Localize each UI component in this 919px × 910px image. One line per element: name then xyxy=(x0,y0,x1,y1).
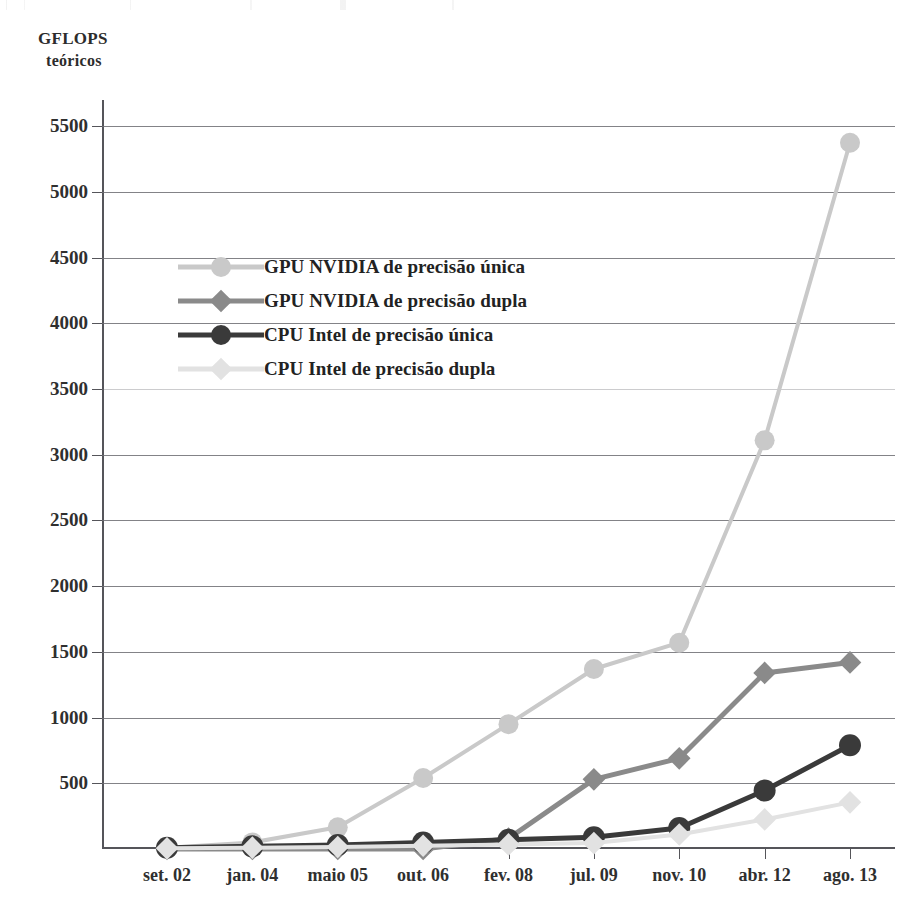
series-1 xyxy=(157,133,860,858)
y-axis-label: 500 xyxy=(60,772,89,794)
x-axis-tick xyxy=(850,849,851,859)
y-axis-tick xyxy=(92,783,102,784)
x-axis-label: out. 06 xyxy=(397,865,449,886)
x-axis-label: nov. 10 xyxy=(652,865,706,886)
y-axis-tick xyxy=(92,389,102,390)
y-axis-label: 2000 xyxy=(50,575,88,597)
data-point-marker xyxy=(753,808,776,831)
legend-item-2[interactable]: GPU NVIDIA de precisão dupla xyxy=(178,286,527,315)
series-layer xyxy=(102,100,895,849)
data-point-marker xyxy=(499,714,519,734)
data-point-marker xyxy=(755,430,775,450)
y-axis-label: 5000 xyxy=(50,181,88,203)
series-line xyxy=(167,143,850,848)
y-axis-title-line2: teóricos xyxy=(38,50,108,72)
legend-label: CPU Intel de precisão única xyxy=(264,324,493,346)
legend-marker xyxy=(211,257,231,277)
x-axis-label: jul. 09 xyxy=(570,865,618,886)
y-axis-title: GFLOPS teóricos xyxy=(38,28,108,72)
legend-marker-circle-icon xyxy=(178,255,264,279)
x-axis-label: fev. 08 xyxy=(484,865,533,886)
y-axis-tick xyxy=(92,520,102,521)
y-axis-label: 4500 xyxy=(50,246,88,268)
y-axis-label: 2500 xyxy=(50,509,88,531)
y-axis-tick xyxy=(92,126,102,127)
y-axis-tick xyxy=(92,455,102,456)
y-axis-tick xyxy=(92,323,102,324)
x-axis-tick xyxy=(765,849,766,859)
legend-marker-diamond-icon xyxy=(178,289,264,313)
legend-label: CPU Intel de precisão dupla xyxy=(264,358,495,380)
plot-area: 5001000150020002500300035004000450050005… xyxy=(102,100,895,849)
legend-label: GPU NVIDIA de precisão dupla xyxy=(264,290,527,312)
data-point-marker xyxy=(839,651,862,674)
legend-label: GPU NVIDIA de precisão única xyxy=(264,256,525,278)
y-axis-tick xyxy=(92,718,102,719)
data-point-marker xyxy=(840,133,860,153)
legend-item-1[interactable]: GPU NVIDIA de precisão única xyxy=(178,252,527,281)
y-axis-title-line1: GFLOPS xyxy=(38,29,108,48)
y-axis-tick xyxy=(92,192,102,193)
x-axis-label: set. 02 xyxy=(143,865,191,886)
data-point-marker xyxy=(584,659,604,679)
x-axis-label: abr. 12 xyxy=(738,865,790,886)
scan-artifact xyxy=(0,0,919,10)
legend-item-4[interactable]: CPU Intel de precisão dupla xyxy=(178,354,527,383)
legend-marker-diamond-icon xyxy=(178,357,264,381)
x-axis-tick xyxy=(679,849,680,859)
y-axis-tick xyxy=(92,586,102,587)
legend-marker xyxy=(210,357,233,380)
y-axis-label: 3000 xyxy=(50,443,88,465)
data-point-marker xyxy=(754,780,776,802)
y-axis-label: 1500 xyxy=(50,640,88,662)
x-axis-label: jan. 04 xyxy=(226,865,278,886)
x-axis-label: ago. 13 xyxy=(823,865,877,886)
y-axis-label: 5500 xyxy=(50,115,88,137)
y-axis-label: 1000 xyxy=(50,706,88,728)
y-axis-tick xyxy=(92,652,102,653)
legend-marker-circle-icon xyxy=(178,323,264,347)
x-axis-label: maio 05 xyxy=(308,865,369,886)
chart-figure: GFLOPS teóricos 500100015002000250030003… xyxy=(0,0,919,910)
data-point-marker xyxy=(839,791,862,814)
data-point-marker xyxy=(839,734,861,756)
legend-marker xyxy=(211,325,231,345)
y-axis-label: 4000 xyxy=(50,312,88,334)
y-axis-tick xyxy=(92,258,102,259)
data-point-marker xyxy=(669,633,689,653)
y-axis-label: 3500 xyxy=(50,378,88,400)
legend-marker xyxy=(210,289,233,312)
legend-item-3[interactable]: CPU Intel de precisão única xyxy=(178,320,527,349)
series-4 xyxy=(156,791,862,860)
data-point-marker xyxy=(413,768,433,788)
chart-legend: GPU NVIDIA de precisão únicaGPU NVIDIA d… xyxy=(178,252,527,383)
